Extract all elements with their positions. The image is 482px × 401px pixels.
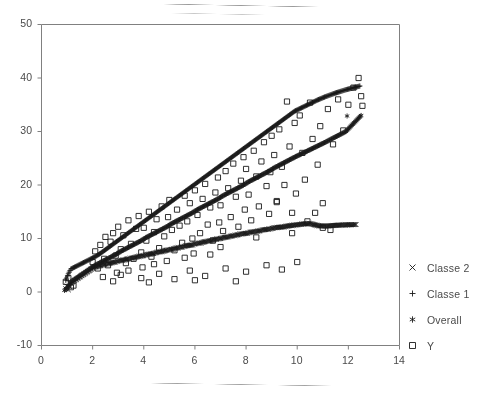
legend-item-classe-2: Classe 2 <box>406 255 482 281</box>
y-tick-label: 10 <box>0 231 32 243</box>
x-tick-label: 10 <box>282 354 312 366</box>
x-tick-label: 4 <box>128 354 158 366</box>
y-tick-label: 0 <box>0 285 32 297</box>
square-icon <box>406 339 420 353</box>
legend-label-overall: Overall <box>427 314 462 326</box>
legend-item-overall: Overall <box>406 307 482 333</box>
legend-item-classe-1: Classe 1 <box>406 281 482 307</box>
y-tick-label: 50 <box>0 17 32 29</box>
cross-icon <box>406 261 420 275</box>
plus-icon <box>406 287 420 301</box>
x-tick-label: 12 <box>333 354 363 366</box>
y-tick-label: -10 <box>0 338 32 350</box>
legend-label-y: Y <box>427 340 434 352</box>
x-tick-label: 2 <box>77 354 107 366</box>
legend-label-classe-2: Classe 2 <box>427 262 469 274</box>
y-tick-label: 20 <box>0 178 32 190</box>
y-tick-label: 30 <box>0 124 32 136</box>
x-tick-label: 14 <box>384 354 414 366</box>
legend-item-y: Y <box>406 333 482 359</box>
x-tick-label: 6 <box>179 354 209 366</box>
x-tick-label: 0 <box>26 354 56 366</box>
x-tick-label: 8 <box>231 354 261 366</box>
y-tick-label: 40 <box>0 71 32 83</box>
chart-legend: Classe 2 Classe 1 Overall Y <box>406 255 482 359</box>
asterisk-icon <box>406 313 420 327</box>
legend-label-classe-1: Classe 1 <box>427 288 469 300</box>
